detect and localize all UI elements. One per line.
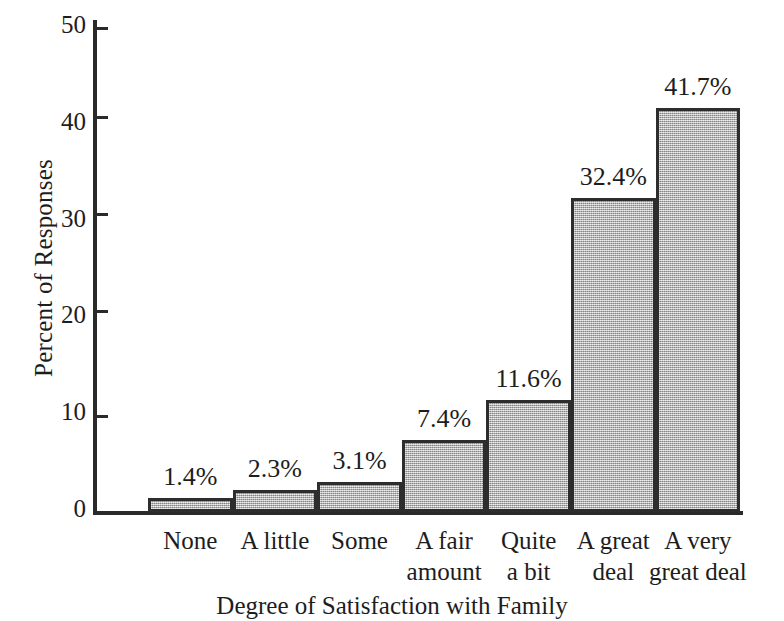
bar	[656, 108, 741, 512]
bar	[233, 490, 318, 512]
plot-area: 1.4%None2.3%A little3.1%Some7.4%A fairam…	[0, 0, 784, 621]
bar	[402, 440, 487, 512]
bar-value-label: 41.7%	[638, 72, 759, 102]
x-axis-title: Degree of Satisfaction with Family	[0, 592, 784, 620]
bar	[148, 498, 233, 512]
bar	[571, 198, 656, 512]
x-tick-label-line2: great deal	[634, 556, 763, 587]
bar	[317, 482, 402, 512]
bar-chart: Percent of Responses 50 40 30 20 10 0 1.…	[0, 0, 784, 621]
x-tick-label: A verygreat deal	[634, 525, 763, 587]
bar	[486, 400, 571, 512]
x-tick-label-line1: A very	[634, 525, 763, 556]
